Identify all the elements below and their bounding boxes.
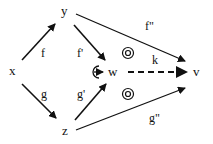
commutative-diagram: x y z w v f g f' g' f" k g" — [0, 0, 213, 144]
label-g-prime: g' — [77, 87, 85, 101]
node-z: z — [62, 123, 68, 138]
node-w: w — [108, 64, 118, 79]
label-f-prime: f' — [77, 46, 83, 60]
label-f: f — [41, 46, 45, 60]
label-f-double-prime: f" — [145, 19, 154, 33]
commutes-symbol-lower — [123, 89, 134, 100]
label-k: k — [152, 53, 158, 67]
node-x: x — [9, 63, 16, 78]
node-y: y — [61, 3, 68, 18]
commutes-symbol-upper — [123, 48, 134, 59]
label-g: g — [41, 87, 47, 101]
arrow-f — [22, 24, 55, 60]
node-v: v — [193, 64, 200, 79]
arrow-g — [22, 84, 56, 118]
label-g-double-prime: g" — [149, 111, 160, 125]
self-loop-icon — [93, 66, 103, 78]
